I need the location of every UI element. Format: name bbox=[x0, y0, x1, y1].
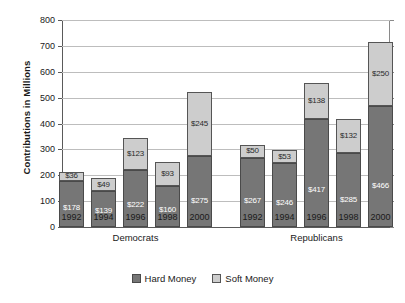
bar-segment-soft-money: $245 bbox=[187, 92, 212, 155]
x-axis-tick-label: 1998 bbox=[151, 212, 185, 222]
bar-value-label: $53 bbox=[278, 153, 291, 161]
x-axis-tick-label: 1996 bbox=[119, 212, 153, 222]
right-axis-tick bbox=[390, 227, 394, 228]
bar-value-label: $250 bbox=[372, 70, 389, 78]
y-axis-tick-label: 800 bbox=[40, 16, 55, 25]
bar-value-label: $285 bbox=[340, 196, 357, 204]
y-axis-title: Contributions in Millions bbox=[21, 38, 32, 198]
chart-legend: Hard Money Soft Money bbox=[0, 273, 405, 284]
x-axis-tick-label: 1994 bbox=[87, 212, 121, 222]
y-axis-tick bbox=[58, 20, 62, 21]
gridline bbox=[62, 20, 390, 21]
bar-republicans-2000: $250$466 bbox=[368, 42, 393, 227]
bar-segment-hard-money: $417 bbox=[304, 119, 329, 227]
bar-segment-soft-money: $53 bbox=[272, 150, 297, 164]
bar-republicans-1998: $132$285 bbox=[336, 119, 361, 227]
bar-segment-soft-money: $49 bbox=[91, 178, 116, 191]
y-axis-tick-label: 400 bbox=[40, 119, 55, 128]
legend-item-soft-money: Soft Money bbox=[212, 273, 273, 284]
bar-value-label: $50 bbox=[246, 147, 259, 155]
bar-value-label: $246 bbox=[276, 199, 293, 207]
bar-segment-hard-money: $466 bbox=[368, 106, 393, 227]
x-axis-group-label-republicans: Republicans bbox=[257, 232, 377, 243]
bar-value-label: $132 bbox=[340, 132, 357, 140]
x-axis-tick-label: 1996 bbox=[300, 212, 334, 222]
bar-segment-soft-money: $50 bbox=[240, 145, 265, 158]
bar-value-label: $417 bbox=[308, 186, 325, 194]
legend-label-hard-money: Hard Money bbox=[145, 273, 197, 284]
gridline bbox=[62, 98, 390, 99]
bar-value-label: $36 bbox=[65, 172, 78, 180]
y-axis-tick-label: 0 bbox=[50, 223, 55, 232]
gridline bbox=[62, 227, 390, 228]
bar-value-label: $93 bbox=[161, 170, 174, 178]
bar-value-label: $466 bbox=[372, 182, 389, 190]
gridline bbox=[62, 72, 390, 73]
bar-value-label: $267 bbox=[244, 197, 261, 205]
contributions-stacked-bar-chart: Contributions in Millions 01002003004005… bbox=[0, 0, 405, 303]
bar-republicans-1996: $138$417 bbox=[304, 83, 329, 227]
legend-item-hard-money: Hard Money bbox=[132, 273, 197, 284]
x-axis-group-label-democrats: Democrats bbox=[76, 232, 196, 243]
y-axis-tick bbox=[58, 227, 62, 228]
bar-segment-soft-money: $250 bbox=[368, 42, 393, 107]
y-axis-tick-label: 700 bbox=[40, 41, 55, 50]
bar-value-label: $123 bbox=[127, 150, 144, 158]
bar-segment-soft-money: $36 bbox=[59, 172, 84, 181]
x-axis-tick-label: 2000 bbox=[183, 212, 217, 222]
bar-segment-soft-money: $123 bbox=[123, 138, 148, 170]
bar-value-label: $49 bbox=[97, 181, 110, 189]
y-axis-tick bbox=[58, 98, 62, 99]
bar-value-label: $275 bbox=[191, 197, 208, 205]
bar-democrats-2000: $245$275 bbox=[187, 92, 212, 227]
plot-area: 0100200300400500600700800$36$178$49$139$… bbox=[62, 20, 390, 227]
y-axis-tick-label: 100 bbox=[40, 197, 55, 206]
x-axis-tick-label: 1992 bbox=[55, 212, 89, 222]
gridline bbox=[62, 46, 390, 47]
bar-value-label: $245 bbox=[191, 120, 208, 128]
y-axis-tick bbox=[58, 72, 62, 73]
legend-swatch-soft-money-icon bbox=[212, 274, 221, 283]
x-axis-tick-label: 1994 bbox=[268, 212, 302, 222]
legend-label-soft-money: Soft Money bbox=[225, 273, 273, 284]
y-axis-tick bbox=[58, 149, 62, 150]
x-axis-tick-label: 2000 bbox=[364, 212, 398, 222]
x-axis-tick-label: 1992 bbox=[236, 212, 270, 222]
bar-value-label: $222 bbox=[127, 201, 144, 209]
bar-segment-soft-money: $132 bbox=[336, 119, 361, 153]
right-axis-tick bbox=[390, 20, 394, 21]
y-axis-tick-label: 500 bbox=[40, 93, 55, 102]
y-axis-tick-label: 200 bbox=[40, 171, 55, 180]
y-axis-tick-label: 600 bbox=[40, 67, 55, 76]
bar-segment-soft-money: $93 bbox=[155, 162, 180, 186]
y-axis-tick bbox=[58, 46, 62, 47]
y-axis-tick bbox=[58, 124, 62, 125]
bar-segment-soft-money: $138 bbox=[304, 83, 329, 119]
bar-value-label: $138 bbox=[308, 97, 325, 105]
legend-swatch-hard-money-icon bbox=[132, 274, 141, 283]
x-axis-tick-label: 1998 bbox=[332, 212, 366, 222]
y-axis-tick-label: 300 bbox=[40, 145, 55, 154]
bar-value-label: $178 bbox=[63, 204, 80, 212]
